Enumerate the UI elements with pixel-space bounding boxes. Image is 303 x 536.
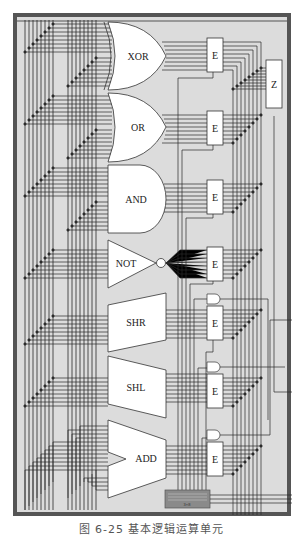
unit-and: AND (108, 165, 166, 233)
unit-shr-label: SHR (126, 317, 146, 328)
decoder-label: 3×8 (184, 502, 192, 507)
unit-xor-label: XOR (127, 51, 148, 62)
and-gate-shl (207, 362, 220, 372)
enabler-label: E (212, 123, 218, 134)
unit-shl-label: SHL (127, 382, 146, 393)
decoder: 3×8 (165, 490, 210, 508)
enabler-add: E (207, 442, 223, 476)
enabler-or: E (207, 111, 223, 145)
enabler-xor: E (207, 38, 223, 72)
and-gate-add (207, 430, 220, 440)
enabler-label: E (212, 259, 218, 270)
unit-and-label: AND (125, 194, 147, 205)
enabler-not: E (207, 247, 223, 281)
zero-box: Z (266, 60, 282, 108)
enabler-shr: E (207, 306, 223, 340)
enabler-label: E (212, 454, 218, 465)
enabler-label: E (212, 386, 218, 397)
zero-box-label: Z (271, 79, 277, 90)
unit-add-label: ADD (135, 453, 157, 464)
enabler-shl: E (207, 374, 223, 408)
and-gate-shr (207, 294, 220, 304)
figure-caption: 图 6-25 基本逻辑运算单元 (0, 520, 303, 536)
enabler-label: E (212, 318, 218, 329)
enabler-label: E (212, 192, 218, 203)
enabler-label: E (212, 50, 218, 61)
unit-not-label: NOT (116, 258, 137, 269)
enabler-and: E (207, 180, 223, 214)
unit-or-label: OR (131, 122, 145, 133)
